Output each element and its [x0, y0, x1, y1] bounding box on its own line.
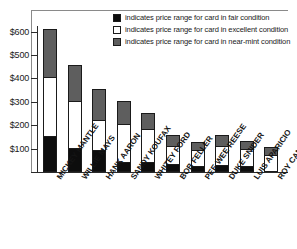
bar-segment-fair	[43, 136, 57, 172]
bar-segment-nearmint	[117, 101, 131, 125]
legend-label-fair: indicates price range for card in fair c…	[125, 13, 269, 22]
legend: indicates price range for card in fair c…	[113, 12, 293, 48]
bar-segment-excellent	[43, 77, 57, 137]
legend-item-nearmint: indicates price range for card in near-m…	[113, 36, 293, 47]
bar-segment-nearmint	[68, 65, 82, 102]
bar	[43, 30, 57, 172]
excellent-swatch-icon	[113, 26, 121, 34]
legend-item-excellent: indicates price range for card in excell…	[113, 24, 293, 35]
legend-label-nearmint: indicates price range for card in near-m…	[125, 37, 290, 46]
bar-segment-nearmint	[141, 113, 155, 130]
fair-swatch-icon	[113, 14, 121, 22]
legend-item-fair: indicates price range for card in fair c…	[113, 12, 293, 23]
legend-label-excellent: indicates price range for card in excell…	[125, 25, 288, 34]
baseball-card-price-chart: $100$200$300$400$500$600 MICKEY MANTLEWI…	[0, 0, 297, 249]
bar-segment-nearmint	[92, 89, 106, 120]
bar-segment-nearmint	[43, 29, 57, 78]
nearmint-swatch-icon	[113, 38, 121, 46]
